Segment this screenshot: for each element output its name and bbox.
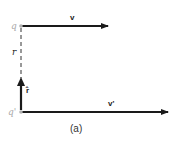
- charge-q-prime-label: q': [8, 108, 16, 117]
- separation-r-label: r: [12, 48, 16, 57]
- figure-caption: (a): [70, 124, 82, 134]
- velocity-v-label: v: [70, 14, 74, 22]
- unit-vector-arrow: [17, 77, 25, 110]
- charge-q-prime-dot: [19, 110, 23, 114]
- charge-q-label: q: [11, 22, 17, 31]
- diagram-canvas: [0, 0, 180, 150]
- velocity-v-prime-label: v': [108, 100, 114, 108]
- charge-q-dot: [19, 24, 23, 28]
- unit-vector-label: r̂: [26, 87, 29, 95]
